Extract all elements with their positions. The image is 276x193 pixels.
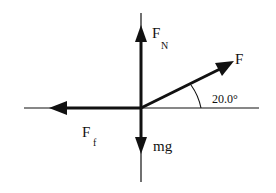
weight-arrowhead-icon	[135, 137, 147, 154]
friction-force-subscript: f	[93, 137, 97, 148]
friction-force-arrow	[49, 101, 141, 115]
friction-force-arrowhead-icon	[49, 101, 67, 115]
friction-force-label: F	[82, 124, 90, 140]
weight-arrow	[135, 108, 147, 154]
normal-force-arrowhead-icon	[135, 25, 147, 42]
normal-force-subscript: N	[161, 40, 168, 51]
angle-label: 20.0°	[212, 92, 238, 106]
angle-arc	[191, 85, 201, 108]
free-body-diagram: F N F 20.0° F f mg	[0, 0, 276, 193]
normal-force-label: F	[152, 25, 160, 41]
weight-label: mg	[153, 138, 173, 154]
normal-force-arrow	[135, 25, 147, 108]
applied-force-label: F	[235, 51, 243, 67]
